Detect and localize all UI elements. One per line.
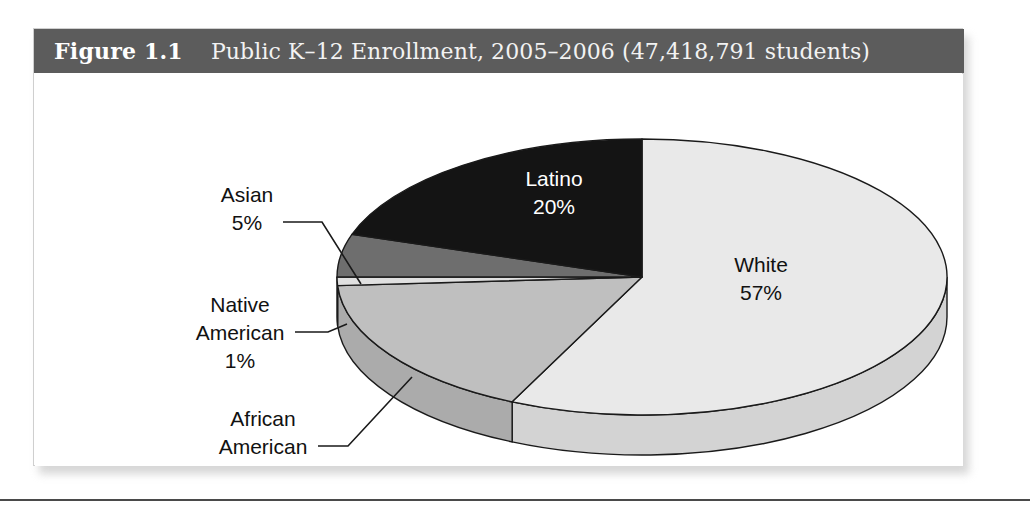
figure-number-label: Figure 1.1 [54,38,183,64]
pie-chart-3d: Latino 20% White 57% Asian 5% Native Ame… [35,74,963,466]
slice-value-latino: 20% [533,195,575,218]
slice-value-african-american: 17% [242,463,284,466]
figure-frame: Figure 1.1 Public K–12 Enrollment, 2005–… [33,28,963,466]
figure-caption-label: Public K–12 Enrollment, 2005–2006 (47,41… [211,39,870,64]
callout-slice-labels: Asian 5% Native American 1% African Amer… [196,183,308,466]
slice-value-white: 57% [740,281,782,304]
slice-label-african-american-line1: African [230,407,295,430]
figure-header-bar: Figure 1.1 Public K–12 Enrollment, 2005–… [34,29,964,73]
slice-value-asian: 5% [232,211,262,234]
slice-value-native-american: 1% [225,349,255,372]
slice-label-latino: Latino [525,167,582,190]
page-bottom-rule [0,499,1030,501]
figure-container: Figure 1.1 Public K–12 Enrollment, 2005–… [33,28,963,466]
slice-label-asian: Asian [221,183,274,206]
slice-label-white: White [734,253,788,276]
slice-label-african-american-line2: American [219,435,308,458]
pie-top-faces [337,139,947,415]
slice-label-native-american-line1: Native [210,293,270,316]
slice-label-native-american-line2: American [196,321,285,344]
chart-area: Latino 20% White 57% Asian 5% Native Ame… [35,74,963,466]
